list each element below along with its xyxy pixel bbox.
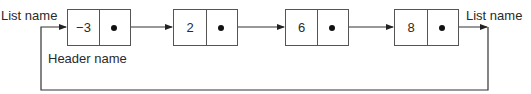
node-value: 8 — [395, 10, 428, 45]
node-value: 6 — [286, 10, 318, 45]
node-pointer — [318, 10, 348, 45]
list-name-left-label: List name — [1, 9, 57, 23]
pointer-dot-icon — [439, 25, 445, 31]
pointer-dot-icon — [329, 25, 335, 31]
node-3: 8 — [394, 9, 459, 46]
header-name-label: Header name — [48, 52, 127, 66]
list-name-right-label: List name — [466, 9, 522, 23]
node-value: 2 — [174, 10, 207, 45]
node-2: 6 — [285, 9, 349, 46]
node-pointer — [428, 10, 458, 45]
pointer-dot-icon — [218, 25, 224, 31]
node-pointer — [100, 10, 130, 45]
node-header: −3 — [67, 9, 131, 46]
node-pointer — [207, 10, 237, 45]
pointer-dot-icon — [111, 25, 117, 31]
node-1: 2 — [173, 9, 238, 46]
node-value: −3 — [68, 10, 100, 45]
